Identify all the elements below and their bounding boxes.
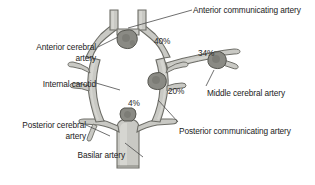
label-posterior-communicating-artery: Posterior communicating artery (179, 126, 291, 137)
anterior-cerebral-left-a2-highlight (112, 11, 115, 29)
leader-middle-cerebral (206, 70, 214, 86)
label-middle-cerebral-artery: Middle cerebral artery (207, 88, 285, 99)
label-basilar-artery: Basilar artery (55, 150, 125, 161)
percent-posterior-communicating: 20% (168, 86, 184, 96)
carotid-terminus-left-vessel (68, 62, 90, 73)
percent-middle-cerebral: 34% (198, 48, 214, 58)
aneurysm-basilar-tip (120, 108, 136, 121)
percent-anterior-communicating: 40% (154, 36, 170, 46)
aneurysm-posterior-communicating (148, 72, 166, 89)
label-posterior-cerebral-artery: Posterior cerebral artery (0, 120, 86, 141)
label-internal-carotid: Internal carotid (21, 79, 96, 90)
leader-internal-carotid (96, 83, 120, 90)
diagram-canvas: Anterior communicating artery Anterior c… (0, 0, 315, 185)
percent-basilar-tip: 4% (128, 98, 140, 108)
aneurysm-anterior-communicating (117, 30, 137, 49)
anterior-cerebral-right-a2-highlight (140, 11, 143, 29)
label-anterior-cerebral-artery: Anterior cerebral artery (14, 42, 96, 63)
label-anterior-communicating-artery: Anterior communicating artery (193, 5, 301, 16)
